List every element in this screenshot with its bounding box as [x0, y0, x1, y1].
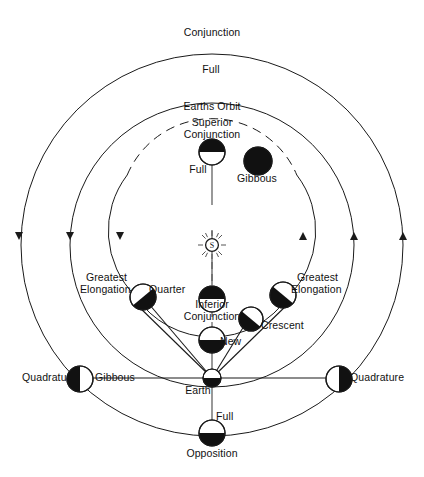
label-earths-orbit: Earths Orbit: [183, 101, 240, 113]
opposition-body: [199, 420, 225, 446]
label-inferior-conjunction-line1: Inferior: [195, 299, 228, 311]
orbit-direction-arrow-left-outer: [15, 232, 23, 240]
orbit-direction-arrow-right-middle: [350, 232, 358, 240]
orbit-direction-arrow-right-outer: [399, 232, 407, 240]
orbit-direction-arrow-left-middle: [66, 232, 74, 240]
orbit-direction-arrow-right-inner: [299, 232, 307, 240]
label-full-top: Full: [202, 64, 219, 76]
label-greatest-elongation-left-line1: Greatest: [86, 272, 127, 284]
label-full-opposition: Full: [216, 411, 233, 423]
label-quadrature-left: Quadrature: [22, 372, 76, 384]
label-conjunction: Conjunction: [184, 27, 241, 39]
astronomy-phase-diagram: S: [0, 0, 424, 477]
conjunction-body: [199, 139, 225, 165]
label-greatest-elongation-right-line1: Greatest: [297, 272, 338, 284]
label-earth: Earth: [185, 385, 211, 397]
sun-glyph-letter: S: [210, 241, 214, 250]
label-full-superior: Full: [189, 164, 206, 176]
label-quadrature-right: Quadrature: [350, 372, 404, 384]
label-gibbous-upper-right: Gibbous: [237, 173, 277, 185]
label-gibbous-lower-left: Gibbous: [95, 372, 135, 384]
label-crescent: Crescent: [261, 320, 304, 332]
quadrature-right-body: [326, 366, 352, 392]
label-inferior-conjunction-line2: Conjunction: [184, 311, 241, 323]
label-greatest-elongation-right-line2: Elongation: [291, 284, 342, 296]
label-new: New: [220, 336, 241, 348]
label-opposition: Opposition: [186, 448, 237, 460]
sun-icon: S: [198, 231, 226, 259]
label-quarter: Quarter: [149, 284, 185, 296]
orbit-direction-arrow-left-inner: [116, 232, 124, 240]
label-superior-conjunction-line1: Superior: [192, 117, 233, 129]
crescent-body: [239, 307, 263, 331]
gibbous-upper-right-body: [244, 147, 272, 175]
label-superior-conjunction-line2: Conjunction: [184, 129, 241, 141]
label-greatest-elongation-left-line2: Elongation: [80, 284, 131, 296]
